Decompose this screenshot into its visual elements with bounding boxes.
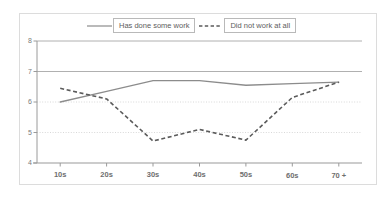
legend-label-did-not-work-at-all: Did not work at all bbox=[230, 21, 290, 30]
legend-label-has-done-some-work: Has done some work bbox=[119, 21, 189, 30]
y-axis-label-6: 6 bbox=[18, 98, 32, 106]
x-axis-label-70plus: 70 + bbox=[322, 171, 356, 180]
dashed-line-icon bbox=[197, 21, 224, 31]
x-axis-label-60s: 60s bbox=[275, 171, 309, 180]
x-axis-label-20s: 20s bbox=[90, 170, 124, 179]
legend-entry-did-not-work-at-all[interactable]: Did not work at all bbox=[197, 17, 296, 34]
y-axis-label-7: 7 bbox=[18, 68, 32, 76]
y-axis-label-5: 5 bbox=[18, 129, 32, 137]
x-axis-label-10s: 10s bbox=[43, 170, 77, 179]
chart-legend: Has done some work Did not work at all bbox=[86, 17, 296, 34]
series-line-has-done-some-work bbox=[60, 81, 339, 102]
y-axis-label-4: 4 bbox=[18, 159, 32, 167]
x-axis-label-30s: 30s bbox=[136, 170, 170, 179]
legend-label-box-2: Did not work at all bbox=[224, 18, 296, 33]
legend-entry-has-done-some-work[interactable]: Has done some work bbox=[86, 17, 195, 34]
solid-line-icon bbox=[86, 21, 113, 31]
x-axis-label-50s: 50s bbox=[229, 170, 263, 179]
legend-label-box-1: Has done some work bbox=[113, 18, 195, 33]
x-axis-label-40s: 40s bbox=[183, 170, 217, 179]
y-axis-label-8: 8 bbox=[18, 37, 32, 45]
line-chart: 8 7 6 5 4 10s 20s 30s 40s 50s 60s 70 + H… bbox=[0, 0, 386, 198]
